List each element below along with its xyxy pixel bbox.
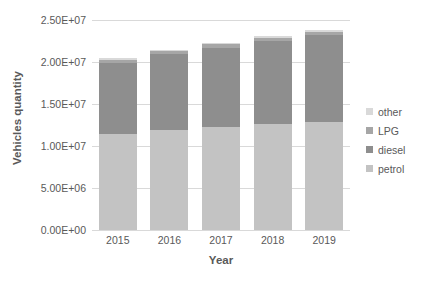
bar-segment-petrol[interactable] — [150, 130, 188, 230]
bar-segment-petrol[interactable] — [305, 122, 343, 230]
legend-label: diesel — [378, 144, 405, 156]
bar-segment-diesel[interactable] — [99, 63, 137, 134]
chart-legend: otherLPGdieselpetrol — [366, 102, 440, 178]
x-axis-tick-label: 2017 — [202, 234, 240, 250]
plot-area — [92, 20, 350, 230]
y-axis-tick-label: 5.00E+06 — [41, 182, 86, 194]
legend-item-other[interactable]: other — [366, 102, 440, 121]
legend-swatch-icon — [366, 146, 373, 153]
x-axis-title: Year — [92, 254, 350, 266]
bar-segment-diesel[interactable] — [305, 35, 343, 122]
bar-column[interactable] — [150, 20, 188, 230]
legend-label: LPG — [378, 125, 399, 137]
bar-segment-diesel[interactable] — [150, 54, 188, 130]
bar-column[interactable] — [202, 20, 240, 230]
x-axis-tick-label: 2015 — [99, 234, 137, 250]
x-axis-tick-label: 2016 — [150, 234, 188, 250]
bar-segment-petrol[interactable] — [202, 127, 240, 230]
bar-column[interactable] — [254, 20, 292, 230]
bar-segment-diesel[interactable] — [254, 41, 292, 124]
y-axis-tick-label: 2.00E+07 — [41, 56, 86, 68]
x-axis-tick-label: 2019 — [305, 234, 343, 250]
y-axis-tick-label: 2.50E+07 — [41, 14, 86, 26]
gridline — [92, 230, 350, 231]
y-axis-title: Vehicles quantity — [11, 58, 23, 178]
x-axis-tick-label: 2018 — [254, 234, 292, 250]
legend-label: petrol — [378, 163, 404, 175]
y-axis-tick-label: 1.00E+07 — [41, 140, 86, 152]
legend-item-petrol[interactable]: petrol — [366, 159, 440, 178]
y-axis-tick-label: 1.50E+07 — [41, 98, 86, 110]
legend-swatch-icon — [366, 108, 373, 115]
legend-label: other — [378, 106, 402, 118]
bar-column[interactable] — [99, 20, 137, 230]
y-axis-tick-label: 0.00E+00 — [41, 224, 86, 236]
y-axis-tick-labels: 0.00E+005.00E+061.00E+071.50E+072.00E+07… — [24, 0, 90, 282]
bar-segment-diesel[interactable] — [202, 48, 240, 127]
legend-item-LPG[interactable]: LPG — [366, 121, 440, 140]
legend-swatch-icon — [366, 127, 373, 134]
bar-column[interactable] — [305, 20, 343, 230]
bar-segment-petrol[interactable] — [99, 134, 137, 230]
x-axis-tick-labels: 20152016201720182019 — [92, 234, 350, 250]
legend-swatch-icon — [366, 165, 373, 172]
legend-item-diesel[interactable]: diesel — [366, 140, 440, 159]
bar-group — [92, 20, 350, 230]
stacked-bar-chart: Vehicles quantity 0.00E+005.00E+061.00E+… — [0, 0, 442, 282]
bar-segment-petrol[interactable] — [254, 124, 292, 230]
